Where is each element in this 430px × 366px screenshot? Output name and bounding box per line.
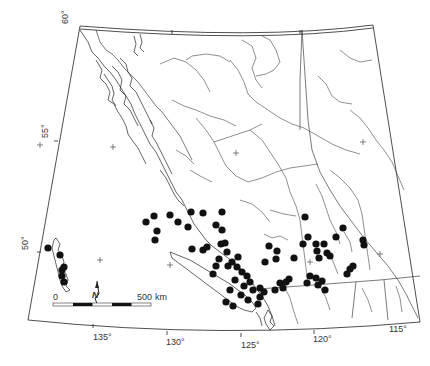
scale-bar-start-label: 0 xyxy=(53,292,58,302)
occurrence-dot xyxy=(304,233,311,240)
occurrence-dot xyxy=(301,213,308,220)
occurrence-dot xyxy=(223,248,230,255)
latitude-label: 55° xyxy=(40,124,50,138)
longitude-label: 135° xyxy=(93,332,112,342)
occurrence-dot xyxy=(150,212,157,219)
occurrence-dot xyxy=(142,218,149,225)
map-frame xyxy=(28,25,420,337)
occurrence-dot xyxy=(217,240,224,247)
occurrence-dot xyxy=(315,254,322,261)
occurrence-dot xyxy=(203,243,210,250)
occurrence-dot xyxy=(174,218,181,225)
graticule-cross-icon xyxy=(37,142,43,148)
graticule-cross-icon xyxy=(360,139,366,145)
graticule-cross-icon xyxy=(307,259,313,265)
occurrence-dot xyxy=(360,241,367,248)
graticule-cross-icon xyxy=(377,251,383,257)
longitude-label: 130° xyxy=(166,337,185,347)
occurrence-dot xyxy=(313,247,320,254)
occurrence-dot xyxy=(222,298,229,305)
occurrence-dot xyxy=(249,286,256,293)
occurrence-dot xyxy=(320,240,327,247)
scale-bar-end-label: 500 xyxy=(137,292,152,302)
occurrence-dot xyxy=(218,226,225,233)
occurrence-dot xyxy=(151,236,158,243)
scale-bar-unit: km xyxy=(155,292,167,302)
occurrence-dot xyxy=(212,262,219,269)
latitude-label: 60° xyxy=(60,10,70,24)
occurrence-dot xyxy=(339,224,346,231)
occurrence-dot xyxy=(273,247,280,254)
occurrence-dot xyxy=(199,209,206,216)
occurrence-dot xyxy=(226,286,233,293)
occurrence-dot xyxy=(215,255,222,262)
occurrence-dot xyxy=(312,240,319,247)
occurrence-dot xyxy=(234,253,241,260)
occurrence-dot xyxy=(240,282,247,289)
occurrence-dot xyxy=(246,278,253,285)
occurrence-dot xyxy=(303,279,310,286)
occurrence-dot xyxy=(326,252,333,259)
occurrence-dot xyxy=(188,245,195,252)
occurrence-dot xyxy=(271,286,278,293)
occurrence-dot xyxy=(212,221,219,228)
occurrence-dot xyxy=(209,270,216,277)
occurrence-dot xyxy=(321,286,328,293)
occurrence-dot xyxy=(261,258,268,265)
occurrence-dot xyxy=(237,291,244,298)
occurrence-dot xyxy=(229,302,236,309)
occurrence-dot xyxy=(285,275,292,282)
occurrence-dot xyxy=(44,244,51,251)
occurrence-dot xyxy=(265,242,272,249)
north-arrow: N xyxy=(92,281,99,304)
scale-bar: 0 500 km xyxy=(53,292,167,306)
graticule-cross-icon xyxy=(97,257,103,263)
occurrence-dot xyxy=(332,233,339,240)
longitude-label: 115° xyxy=(389,324,407,334)
occurrence-dot xyxy=(187,208,194,215)
longitude-label: 125° xyxy=(241,340,260,350)
occurrence-dot xyxy=(218,208,225,215)
occurrence-dot xyxy=(60,278,67,285)
occurrence-dot xyxy=(314,281,321,288)
graticule-cross-icon xyxy=(233,150,239,156)
occurrence-dot xyxy=(299,240,306,247)
occurrence-dot xyxy=(254,300,261,307)
coordinate-labels: 60°55°50°135°130°125°120°115° xyxy=(20,10,407,350)
occurrence-dot xyxy=(256,293,263,300)
occurrence-dot xyxy=(279,284,286,291)
occurrence-dot xyxy=(231,276,238,283)
occurrence-dot xyxy=(184,223,191,230)
occurrence-dot xyxy=(272,255,279,262)
latitude-label: 50° xyxy=(20,236,30,250)
occurrence-dot xyxy=(56,251,63,258)
occurrence-dot xyxy=(349,262,356,269)
distribution-map: 60°55°50°135°130°125°120°115° N 0 500 km xyxy=(0,0,430,366)
graticule-cross-icon xyxy=(167,262,173,268)
borders xyxy=(96,30,420,320)
occurrence-dot xyxy=(244,296,251,303)
occurrence-dot xyxy=(153,227,160,234)
north-arrow-label: N xyxy=(92,290,99,300)
occurrence-dot xyxy=(166,211,173,218)
graticule-cross-icon xyxy=(110,144,116,150)
longitude-label: 120° xyxy=(313,334,332,344)
occurrence-dot xyxy=(290,254,297,261)
occurrence-dot xyxy=(224,262,231,269)
